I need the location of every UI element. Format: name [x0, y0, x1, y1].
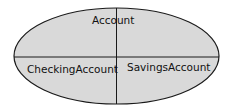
label-account: Account — [92, 15, 134, 26]
label-savings-account: SavingsAccount — [127, 62, 210, 73]
label-checking-account: CheckingAccount — [27, 64, 118, 75]
